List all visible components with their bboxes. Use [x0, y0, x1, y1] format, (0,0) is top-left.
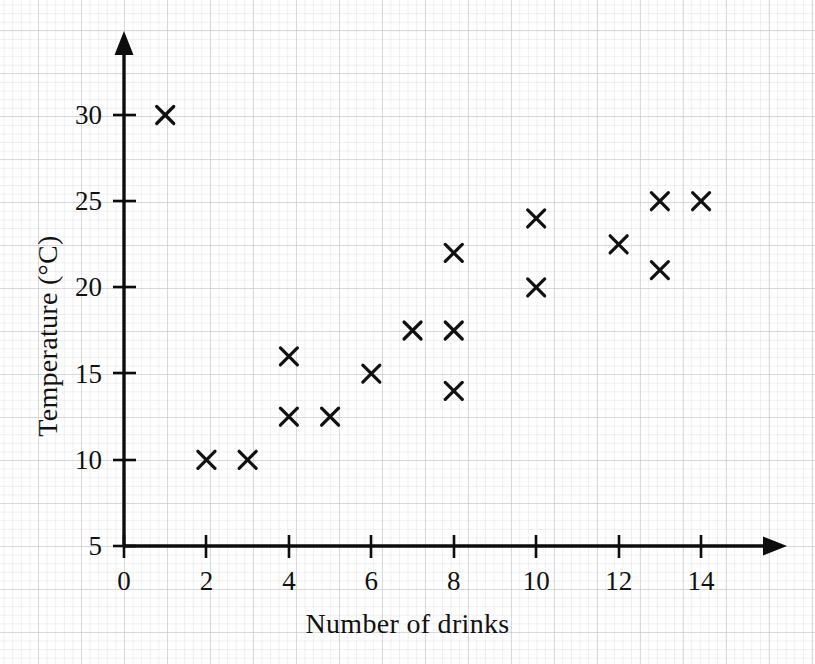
y-tick-label: 5 — [52, 533, 102, 560]
x-tick-label: 0 — [117, 568, 131, 595]
y-axis-title: Temperature (°C) — [32, 136, 64, 536]
x-tick-label: 6 — [365, 568, 379, 595]
data-point-marker — [651, 262, 668, 279]
data-point-marker — [528, 279, 545, 296]
data-point-marker — [280, 348, 297, 365]
data-point-markers — [157, 107, 710, 469]
data-point-marker — [445, 322, 462, 339]
x-tick-label: 12 — [605, 568, 632, 595]
x-tick-label: 8 — [447, 568, 461, 595]
data-point-marker — [198, 451, 215, 468]
data-point-marker — [404, 322, 421, 339]
data-point-marker — [239, 451, 256, 468]
data-point-marker — [610, 236, 627, 253]
x-tick-label: 4 — [282, 568, 296, 595]
data-point-marker — [280, 408, 297, 425]
x-axis-title: Number of drinks — [0, 608, 815, 640]
x-tick-label: 10 — [523, 568, 550, 595]
data-point-marker — [445, 382, 462, 399]
y-axis-arrow-icon — [115, 31, 134, 55]
data-point-marker — [528, 210, 545, 227]
data-point-marker — [363, 365, 380, 382]
data-point-marker — [445, 244, 462, 261]
y-axis — [115, 31, 134, 547]
data-point-marker — [693, 193, 710, 210]
data-point-marker — [157, 107, 174, 124]
data-point-marker — [651, 193, 668, 210]
x-axis — [124, 537, 787, 556]
x-tick-label: 14 — [688, 568, 715, 595]
x-axis-arrow-icon — [763, 537, 787, 556]
scatter-chart: 51015202530 02468101214 Number of drinks… — [0, 0, 815, 664]
plot-area — [0, 0, 815, 664]
data-point-marker — [322, 408, 339, 425]
y-tick-label: 30 — [52, 102, 102, 129]
x-tick-label: 2 — [200, 568, 214, 595]
